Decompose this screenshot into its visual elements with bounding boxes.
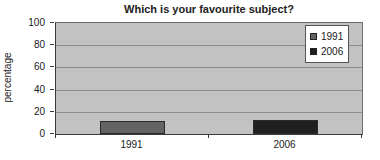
y-axis-ticks: 020406080100: [0, 22, 55, 135]
y-tick-label-80: 80: [34, 40, 45, 50]
x-tick-mark-1: [208, 135, 209, 138]
y-tick-mark-20: [50, 111, 54, 112]
y-tick-label-100: 100: [28, 18, 45, 28]
legend-entry-2006: 2006: [310, 44, 343, 59]
x-tick-mark-2: [361, 135, 362, 138]
gridline-20: [56, 112, 362, 113]
y-tick-label-0: 0: [39, 129, 45, 139]
x-category-label-1991: 1991: [55, 139, 208, 150]
y-tick-mark-0: [50, 133, 54, 134]
legend: 19912006: [305, 25, 349, 63]
legend-entry-1991: 1991: [310, 29, 343, 44]
gridline-60: [56, 67, 362, 68]
bar-chart-figure: Which is your favourite subject? percent…: [0, 0, 380, 160]
y-tick-mark-60: [50, 66, 54, 67]
bar-2006-2006: [253, 120, 318, 134]
y-tick-mark-80: [50, 44, 54, 45]
legend-label-2006: 2006: [321, 44, 343, 59]
y-tick-mark-100: [50, 22, 54, 23]
y-tick-label-40: 40: [34, 85, 45, 95]
legend-marker-1991: [310, 33, 317, 40]
y-tick-label-60: 60: [34, 62, 45, 72]
x-tick-mark-0: [55, 135, 56, 138]
x-axis-labels: 19912006: [55, 139, 363, 153]
legend-marker-2006: [310, 48, 317, 55]
bar-1991-1991: [100, 121, 165, 134]
y-tick-mark-40: [50, 89, 54, 90]
gridline-40: [56, 90, 362, 91]
chart-title: Which is your favourite subject?: [55, 3, 363, 15]
y-tick-label-20: 20: [34, 107, 45, 117]
x-category-label-2006: 2006: [208, 139, 361, 150]
legend-label-1991: 1991: [321, 29, 343, 44]
